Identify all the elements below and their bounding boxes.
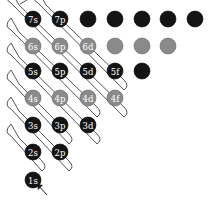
orbital-7s: 7s xyxy=(25,11,41,27)
orbital-label: 3s xyxy=(28,121,38,131)
orbital-label: 6p xyxy=(55,42,66,52)
orbital-label: 3d xyxy=(83,121,94,131)
orbital-empty xyxy=(107,38,123,54)
orbital-label: 2p xyxy=(55,148,66,158)
orbital-empty xyxy=(160,11,176,27)
orbital-5p: 5p xyxy=(52,63,68,79)
orbital-4s: 4s xyxy=(25,90,41,106)
orbital-label: 5d xyxy=(83,67,94,77)
orbital-6d: 6d xyxy=(80,38,96,54)
orbital-label: 4s xyxy=(28,94,38,104)
orbital-4p: 4p xyxy=(52,90,68,106)
orbital-label: 7p xyxy=(55,15,66,25)
orbital-label: 3p xyxy=(55,121,66,131)
orbital-label: 6d xyxy=(83,42,94,52)
orbital-2s: 2s xyxy=(25,144,41,160)
orbital-5f: 5f xyxy=(107,63,123,79)
orbital-label: 1s xyxy=(28,176,38,186)
orbital-6p: 6p xyxy=(52,38,68,54)
orbital-5d: 5d xyxy=(80,63,96,79)
orbital-5s: 5s xyxy=(25,63,41,79)
aufbau-diagram: 7s7p6s6p6d5s5p5d5f4s4p4d4f3s3p3d2s2p1s xyxy=(0,0,210,202)
orbital-3s: 3s xyxy=(25,117,41,133)
orbital-empty xyxy=(134,11,150,27)
orbital-empty xyxy=(134,38,150,54)
orbital-empty xyxy=(134,63,150,79)
orbital-4d: 4d xyxy=(80,90,96,106)
filling-order-path xyxy=(7,0,127,171)
orbital-grid: 7s7p6s6p6d5s5p5d5f4s4p4d4f3s3p3d2s2p1s xyxy=(25,11,203,188)
orbital-3p: 3p xyxy=(52,117,68,133)
orbital-1s: 1s xyxy=(25,172,41,188)
orbital-label: 5p xyxy=(55,67,66,77)
orbital-4f: 4f xyxy=(107,90,123,106)
orbital-label: 4d xyxy=(83,94,94,104)
orbital-label: 4f xyxy=(111,94,120,104)
orbital-label: 4p xyxy=(55,94,66,104)
orbital-label: 7s xyxy=(28,15,38,25)
orbital-2p: 2p xyxy=(52,144,68,160)
orbital-empty xyxy=(160,38,176,54)
orbital-label: 6s xyxy=(28,42,38,52)
orbital-7p: 7p xyxy=(52,11,68,27)
orbital-empty xyxy=(107,11,123,27)
orbital-empty xyxy=(187,11,203,27)
orbital-6s: 6s xyxy=(25,38,41,54)
orbital-label: 5f xyxy=(111,67,120,77)
orbital-label: 2s xyxy=(28,148,38,158)
orbital-empty xyxy=(80,11,96,27)
orbital-label: 5s xyxy=(28,67,38,77)
orbital-3d: 3d xyxy=(80,117,96,133)
